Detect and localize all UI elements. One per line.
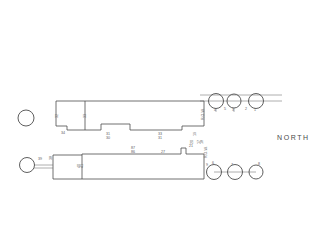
dim-label-u8: 19 xyxy=(193,132,197,136)
dim-label-u10: 18 xyxy=(200,140,204,144)
tree-label-7: 7 xyxy=(231,163,233,167)
tree-circle-left-lower[interactable] xyxy=(20,158,35,173)
dim-label-u2: 34 xyxy=(61,131,65,135)
dim-label-l7: 27 xyxy=(161,150,165,154)
dim-label-l4: 41 xyxy=(80,164,84,168)
tree-circle-left-upper[interactable] xyxy=(18,110,34,126)
dim-label-u7: 31 xyxy=(158,136,162,140)
dim-label-row-upper: R.O.W. xyxy=(201,108,205,120)
tree-label-4: 4 xyxy=(214,108,216,112)
dim-label-row-lower: R.O.W. xyxy=(204,146,208,158)
dim-label-u1: 32 xyxy=(55,114,59,118)
dim-label-u3: 33 xyxy=(83,114,87,118)
dim-label-l8: 21 xyxy=(189,144,193,148)
north-orientation-label: NORTH xyxy=(277,134,310,141)
dim-label-l2: 38 xyxy=(49,156,53,160)
tree-label-6: 6 xyxy=(212,161,214,165)
lower-building-outline xyxy=(53,148,204,179)
tick-label-5: 5 xyxy=(224,107,226,111)
dim-label-u5: 30 xyxy=(106,136,110,140)
upper-building-outline xyxy=(56,101,204,130)
tree-label-1: 1 xyxy=(254,108,256,112)
site-plan-drawing: 32 34 33 31 30 33 31 19 17 18 20 R.O.W. … xyxy=(0,0,329,250)
tick-label-9: 9 xyxy=(206,163,208,167)
tree-label-8: 8 xyxy=(258,162,260,166)
dim-label-l1: 39 xyxy=(38,157,42,161)
tree-label-3: 3 xyxy=(232,108,234,112)
dim-label-l6: 86 xyxy=(131,150,135,154)
plan-canvas: 32 34 33 31 30 33 31 19 17 18 20 R.O.W. … xyxy=(0,0,329,250)
tick-label-2: 2 xyxy=(245,107,247,111)
